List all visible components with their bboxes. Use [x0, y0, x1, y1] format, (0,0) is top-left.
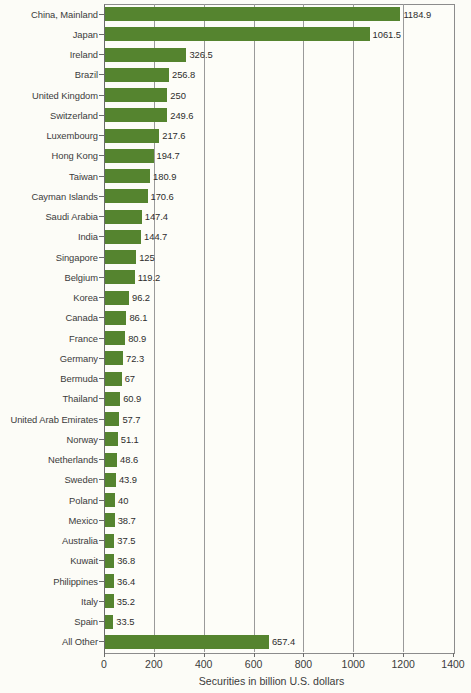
bar-row: France80.9: [0, 328, 471, 348]
y-axis-tick: [99, 378, 104, 379]
x-tick-label: 200: [145, 658, 163, 670]
bar-rows: China, Mainland1184.9Japan1061.5Ireland3…: [0, 0, 471, 652]
bar-value-label: 36.4: [117, 576, 135, 587]
category-label: Spain: [0, 616, 98, 627]
bar-row: Kuwait36.8: [0, 551, 471, 571]
y-axis-tick: [99, 358, 104, 359]
y-axis-tick: [99, 155, 104, 156]
y-axis-tick: [99, 236, 104, 237]
bar: [105, 473, 116, 487]
x-tick-1200: [403, 653, 404, 657]
category-label: Italy: [0, 596, 98, 607]
x-tick-label: 1000: [342, 658, 365, 670]
bar: [105, 230, 141, 244]
category-label: Luxembourg: [0, 130, 98, 141]
category-label: Kuwait: [0, 555, 98, 566]
bar-value-label: 144.7: [144, 231, 167, 242]
y-axis-tick: [99, 338, 104, 339]
y-axis-tick: [99, 398, 104, 399]
category-label: Korea: [0, 292, 98, 303]
bar: [105, 392, 120, 406]
bar-value-label: 217.6: [162, 130, 185, 141]
bar: [105, 574, 114, 588]
bar-value-label: 43.9: [119, 474, 137, 485]
bar-value-label: 1184.9: [403, 9, 431, 20]
category-label: Germany: [0, 353, 98, 364]
y-axis-tick: [99, 560, 104, 561]
bar-row: Thailand60.9: [0, 389, 471, 409]
bar: [105, 189, 148, 203]
bar: [105, 513, 115, 527]
bar-row: Ireland326.5: [0, 45, 471, 65]
y-axis-tick: [99, 135, 104, 136]
bar: [105, 68, 169, 82]
bar: [105, 149, 154, 163]
bar-row: China, Mainland1184.9: [0, 4, 471, 24]
y-axis-tick: [99, 34, 104, 35]
bar-value-label: 40: [118, 495, 128, 506]
bar-row: Philippines36.4: [0, 571, 471, 591]
y-axis-tick: [99, 520, 104, 521]
category-label: Mexico: [0, 515, 98, 526]
bar-row: Japan1061.5: [0, 24, 471, 44]
y-axis-tick: [99, 176, 104, 177]
bar-row: Norway51.1: [0, 429, 471, 449]
y-axis-tick: [99, 54, 104, 55]
bar-row: Belgium119.2: [0, 267, 471, 287]
bar-value-label: 48.6: [120, 454, 138, 465]
y-axis-tick: [99, 621, 104, 622]
bar-row: United Arab Emirates57.7: [0, 409, 471, 429]
bar-row: Singapore125: [0, 247, 471, 267]
bar-value-label: 96.2: [132, 292, 150, 303]
bar: [105, 635, 269, 649]
bar-value-label: 35.2: [117, 596, 135, 607]
bar-row: Italy35.2: [0, 591, 471, 611]
y-axis-tick: [99, 439, 104, 440]
category-label: India: [0, 231, 98, 242]
bar-chart: China, Mainland1184.9Japan1061.5Ireland3…: [0, 0, 471, 693]
bar-value-label: 147.4: [145, 211, 168, 222]
category-label: Singapore: [0, 252, 98, 263]
bar-value-label: 33.5: [116, 616, 134, 627]
bar-row: United Kingdom250: [0, 85, 471, 105]
bar: [105, 453, 117, 467]
category-label: Norway: [0, 434, 98, 445]
bar-row: Mexico38.7: [0, 510, 471, 530]
bar-value-label: 180.9: [153, 171, 176, 182]
bar: [105, 270, 135, 284]
x-tick-800: [303, 653, 304, 657]
y-axis-tick: [99, 297, 104, 298]
bar-row: Canada86.1: [0, 308, 471, 328]
bar: [105, 88, 167, 102]
y-axis-tick: [99, 95, 104, 96]
bar-value-label: 60.9: [123, 393, 141, 404]
bar-row: Poland40: [0, 490, 471, 510]
x-tick-label: 800: [295, 658, 313, 670]
bar: [105, 331, 125, 345]
bar-row: Australia37.5: [0, 531, 471, 551]
category-label: Belgium: [0, 272, 98, 283]
y-axis-tick: [99, 540, 104, 541]
bar-value-label: 256.8: [172, 69, 195, 80]
bar-value-label: 72.3: [126, 353, 144, 364]
bar: [105, 351, 123, 365]
y-axis-tick: [99, 459, 104, 460]
bar-row: Luxembourg217.6: [0, 126, 471, 146]
bar-value-label: 249.6: [170, 110, 193, 121]
y-axis-tick: [99, 74, 104, 75]
category-label: Netherlands: [0, 454, 98, 465]
bar-value-label: 67: [125, 373, 135, 384]
bar-value-label: 326.5: [189, 49, 212, 60]
category-label: Cayman Islands: [0, 191, 98, 202]
bar-row: Bermuda67: [0, 369, 471, 389]
x-tick-label: 1400: [441, 658, 464, 670]
y-axis-tick: [99, 14, 104, 15]
y-axis-tick: [99, 257, 104, 258]
bar: [105, 250, 136, 264]
y-axis-tick: [99, 581, 104, 582]
bar-row: Netherlands48.6: [0, 450, 471, 470]
category-label: Taiwan: [0, 171, 98, 182]
bar-value-label: 51.1: [121, 434, 139, 445]
bar-value-label: 194.7: [157, 150, 180, 161]
y-axis-tick: [99, 115, 104, 116]
